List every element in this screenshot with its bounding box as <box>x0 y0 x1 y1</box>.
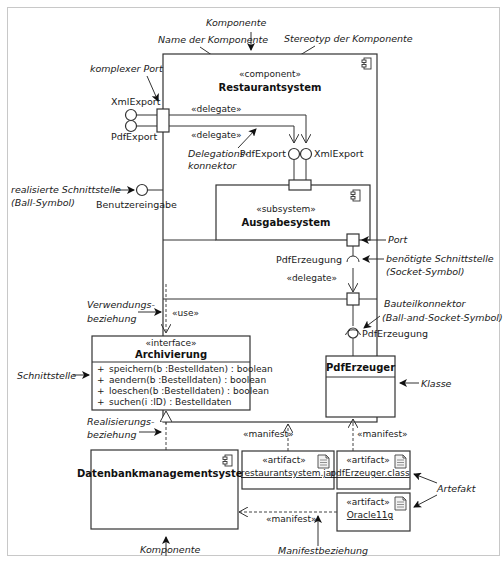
document-icon <box>395 497 406 510</box>
document-icon <box>395 455 406 468</box>
annotation-komplexer-port: komplexer Port <box>90 63 164 74</box>
annotation-komponente-bottom: Komponente <box>140 544 200 555</box>
op-visibility: + <box>97 386 105 396</box>
annotation-verwendungsbeziehung-1: Verwendungs- <box>87 299 155 310</box>
annotation-klasse: Klasse <box>421 378 452 389</box>
annotation-manifestbeziehung: Manifestbeziehung <box>278 545 368 556</box>
artifact-name-oracle11g: Oracle11g <box>347 510 393 520</box>
annotation-port: Port <box>388 234 408 245</box>
annotation-verwendungsbeziehung-2: beziehung <box>87 313 136 324</box>
port-label-pdfexport-inner: PdfExport <box>240 148 286 159</box>
port-ausgabesystem-top[interactable] <box>289 180 311 190</box>
ball-xmlexport-inner <box>301 149 312 160</box>
ball-pdfexport-left <box>126 121 137 132</box>
port-label-benutzereingabe: Benutzereingabe <box>96 199 177 210</box>
op-speichern: speichern(b :Bestelldaten) : boolean <box>109 364 273 374</box>
port-label-pdferzeugung-ball: PdfErzeugung <box>362 328 428 339</box>
artifact-stereotype: «artifact» <box>346 455 389 465</box>
annotation-bauteilkonnektor-2: (Ball-and-Socket-Symbol) <box>382 312 503 323</box>
uml-component-diagram: Komponente Name der Komponente Stereotyp… <box>0 0 504 581</box>
ausgabesystem-name: Ausgabesystem <box>241 217 330 228</box>
op-visibility: + <box>97 397 105 407</box>
annotation-artefakt: Artefakt <box>436 483 477 494</box>
annotation-stereotyp: Stereotyp der Komponente <box>284 33 413 44</box>
annotation-realisierungsbeziehung-1: Realisierungs- <box>87 416 155 427</box>
annotation-realisierungsbeziehung-2: beziehung <box>87 429 136 440</box>
annotation-realisierte-schnittstelle-2: (Ball-Symbol) <box>11 197 75 208</box>
complex-port[interactable] <box>157 109 169 132</box>
artifact-stereotype: «artifact» <box>262 455 305 465</box>
restaurantsystem-stereotype: «component» <box>239 69 301 79</box>
artifact-name-restaurantsystem-jar: restaurantsystem.jar <box>241 468 335 478</box>
artifact-name-pdferzeuger-class: pdfErzeuger.class <box>330 468 410 478</box>
annotation-komponente-top: Komponente <box>206 17 266 28</box>
port-restaurantsystem-boundary[interactable] <box>347 293 359 305</box>
port-label-pdferzeugung-socket: PdfErzeugung <box>276 254 342 265</box>
label-manifest-3: «manifest» <box>266 514 316 524</box>
op-visibility: + <box>97 364 105 374</box>
ball-benutzereingabe <box>137 185 148 196</box>
annotation-benoetigte-schnittstelle-1: benötigte Schnittstelle <box>386 253 494 264</box>
ball-xmlexport-left <box>126 110 137 121</box>
port-label-pdfexport-left: PdfExport <box>111 131 157 142</box>
label-delegate-2: «delegate» <box>191 130 242 140</box>
datenbank-name: Datenbankmanagementsystem <box>77 468 253 479</box>
op-visibility: + <box>97 375 105 385</box>
restaurantsystem-name: Restaurantsystem <box>218 82 321 93</box>
op-aendern: aendern(b :Bestelldaten) : boolean <box>109 375 266 385</box>
component-datenbankmanagementsystem[interactable] <box>91 450 238 529</box>
archivierung-name: Archivierung <box>135 349 207 360</box>
document-icon <box>318 455 329 468</box>
annotation-bauteilkonnektor-1: Bauteilkonnektor <box>384 298 466 309</box>
archivierung-stereotype: «interface» <box>145 338 196 348</box>
port-ausgabesystem-bottom[interactable] <box>347 234 359 246</box>
op-suchen: suchen(i :ID) : Bestelldaten <box>109 397 232 407</box>
ausgabesystem-stereotype: «subsystem» <box>256 204 316 214</box>
annotation-delegationskonnektor-2: konnektor <box>188 160 237 171</box>
label-delegate-3: «delegate» <box>286 273 337 283</box>
op-loeschen: loeschen(b :Bestelldaten) : boolean <box>109 386 269 396</box>
artifact-stereotype: «artifact» <box>346 497 389 507</box>
ball-pdfexport-inner <box>289 149 300 160</box>
label-manifest-1: «manifest» <box>243 429 293 439</box>
annotation-benoetigte-schnittstelle-2: (Socket-Symbol) <box>386 266 464 277</box>
annotation-realisierte-schnittstelle-1: realisierte Schnittstelle <box>11 184 121 195</box>
port-label-xmlexport-left: XmlExport <box>111 96 161 107</box>
label-use: «use» <box>172 308 199 318</box>
annotation-schnittstelle: Schnittstelle <box>17 370 76 381</box>
port-label-xmlexport-inner: XmlExport <box>314 148 364 159</box>
annotation-name-der-komponente: Name der Komponente <box>158 34 268 45</box>
label-delegate-1: «delegate» <box>191 104 242 114</box>
pdferzeuger-name: PdfErzeuger <box>326 362 395 373</box>
label-manifest-2: «manifest» <box>357 429 407 439</box>
